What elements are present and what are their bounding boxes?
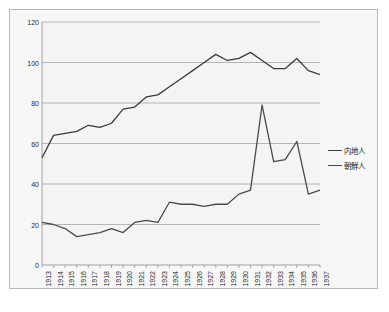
- x-tick-label: 1931: [254, 271, 261, 287]
- x-tick-label: 1924: [172, 271, 179, 287]
- x-tick-label: 1919: [115, 271, 122, 287]
- x-tick-label: 1916: [80, 271, 87, 287]
- x-tick-label: 1915: [68, 271, 75, 287]
- x-tick-label: 1920: [126, 271, 133, 287]
- legend-item-chosenjin[interactable]: 朝鮮人: [328, 158, 388, 173]
- x-tick-label: 1933: [277, 271, 284, 287]
- x-tick-label: 1913: [45, 271, 52, 287]
- x-tick-label: 1925: [184, 271, 191, 287]
- x-tick-label: 1936: [311, 271, 318, 287]
- legend-swatch-icon: [328, 165, 342, 166]
- x-tick-label: 1934: [288, 271, 295, 287]
- x-tick-label: 1937: [323, 271, 330, 287]
- x-tick-label: 1927: [207, 271, 214, 287]
- y-tick-label: 60: [13, 140, 39, 147]
- plot-area: [42, 22, 320, 265]
- x-tick-label: 1923: [161, 271, 168, 287]
- y-tick-label: 120: [13, 19, 39, 26]
- x-tick-label: 1932: [265, 271, 272, 287]
- series-line: [42, 52, 320, 157]
- x-tick-label: 1922: [149, 271, 156, 287]
- legend-label: 内地人: [344, 145, 365, 156]
- legend-label: 朝鮮人: [344, 160, 365, 171]
- x-tick-label: 1926: [196, 271, 203, 287]
- x-tick-label: 1917: [91, 271, 98, 287]
- y-tick-label: 40: [13, 181, 39, 188]
- x-tick-label: 1914: [57, 271, 64, 287]
- chart-legend: 内地人 朝鮮人: [328, 143, 388, 173]
- chart-frame: 020406080100120 191319141915191619171918…: [9, 9, 378, 289]
- series-lines: [42, 22, 320, 265]
- y-tick-label: 20: [13, 221, 39, 228]
- x-tick-label: 1921: [138, 271, 145, 287]
- y-tick-label: 80: [13, 100, 39, 107]
- y-tick-label: 0: [13, 262, 39, 269]
- legend-item-naichijin[interactable]: 内地人: [328, 143, 388, 158]
- x-tick-label: 1928: [219, 271, 226, 287]
- x-tick-label: 1930: [242, 271, 249, 287]
- x-axis: 1913191419151916191719181919192019211922…: [42, 267, 320, 301]
- y-axis: 020406080100120: [10, 22, 39, 265]
- x-tick-label: 1935: [300, 271, 307, 287]
- series-line: [42, 105, 320, 237]
- x-tick-label: 1929: [230, 271, 237, 287]
- x-tick-label: 1918: [103, 271, 110, 287]
- legend-swatch-icon: [328, 150, 342, 151]
- y-tick-label: 100: [13, 59, 39, 66]
